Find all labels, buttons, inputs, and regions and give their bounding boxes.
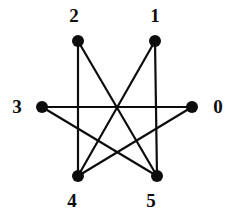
vertex-label-4: 4 bbox=[61, 191, 83, 210]
graph-diagram: 012345 bbox=[0, 0, 245, 220]
vertex-node-0[interactable] bbox=[186, 101, 198, 113]
vertex-node-4[interactable] bbox=[72, 170, 84, 182]
vertex-label-5: 5 bbox=[140, 191, 162, 210]
edge-1-5 bbox=[155, 41, 157, 176]
vertex-label-0: 0 bbox=[207, 97, 229, 116]
vertex-label-1: 1 bbox=[144, 6, 166, 25]
vertex-node-5[interactable] bbox=[151, 170, 163, 182]
vertex-label-3: 3 bbox=[6, 97, 28, 116]
edge-0-4 bbox=[78, 107, 192, 176]
vertex-label-2: 2 bbox=[63, 6, 85, 25]
edge-3-5 bbox=[42, 107, 157, 176]
vertex-node-2[interactable] bbox=[72, 35, 84, 47]
vertex-node-1[interactable] bbox=[149, 35, 161, 47]
edge-layer bbox=[42, 41, 192, 176]
vertex-node-3[interactable] bbox=[36, 101, 48, 113]
